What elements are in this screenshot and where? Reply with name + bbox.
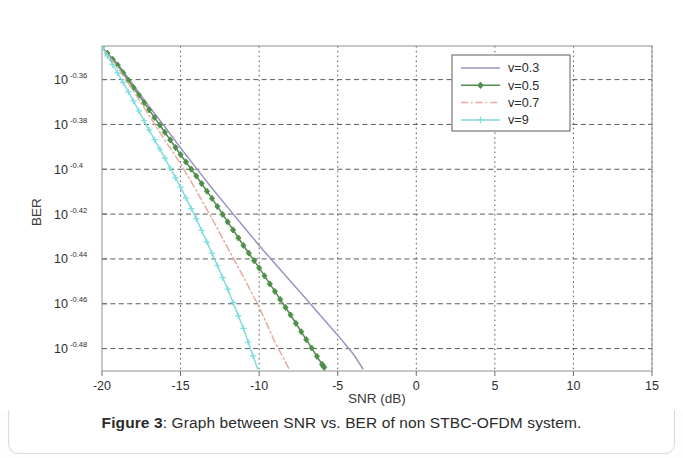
y-tick-base: 10 — [54, 252, 68, 266]
y-tick-exponent: -0.46 — [70, 295, 87, 304]
figure-number: Figure 3 — [102, 414, 163, 431]
x-tick-label: 0 — [413, 379, 420, 393]
y-axis-label: BER — [29, 198, 44, 226]
y-tick-exponent: -0.36 — [70, 71, 87, 80]
x-axis-label: SNR (dB) — [348, 391, 406, 406]
caption-text: Graph between SNR vs. BER of non STBC-OF… — [172, 414, 582, 431]
y-tick-exponent: -0.38 — [70, 116, 87, 125]
x-tick-label: 10 — [566, 379, 580, 393]
chart-legend: v=0.3v=0.5v=0.7v=9 — [452, 55, 570, 131]
x-tick-label: 15 — [645, 379, 659, 393]
y-tick-exponent: -0.4 — [70, 161, 83, 170]
x-tick-label: -20 — [93, 379, 111, 393]
caption-separator: : — [163, 414, 167, 431]
y-tick-base: 10 — [54, 297, 68, 311]
y-tick-exponent: -0.42 — [70, 206, 87, 215]
y-tick-base: 10 — [54, 73, 68, 87]
figure-caption: Figure 3: Graph between SNR vs. BER of n… — [0, 414, 683, 432]
y-tick-base: 10 — [54, 163, 68, 177]
figure-plot-area: -20-15-10-5051015 10-0.3610-0.3810-0.410… — [0, 0, 683, 410]
x-tick-label: -15 — [172, 379, 190, 393]
y-tick-base: 10 — [54, 342, 68, 356]
ber-vs-snr-chart: -20-15-10-5051015 10-0.3610-0.3810-0.410… — [0, 0, 683, 410]
legend-label: v=0.7 — [508, 96, 539, 110]
y-tick-base: 10 — [54, 208, 68, 222]
legend-label: v=9 — [508, 113, 529, 127]
y-tick-exponent: -0.48 — [70, 340, 87, 349]
x-tick-label: -5 — [332, 379, 343, 393]
y-tick-base: 10 — [54, 118, 68, 132]
x-tick-label: 5 — [491, 379, 498, 393]
legend-label: v=0.5 — [508, 79, 539, 93]
legend-label: v=0.3 — [508, 61, 539, 75]
scanned-page: -20-15-10-5051015 10-0.3610-0.3810-0.410… — [0, 0, 683, 458]
x-tick-label: -10 — [250, 379, 268, 393]
y-tick-exponent: -0.44 — [70, 250, 87, 259]
